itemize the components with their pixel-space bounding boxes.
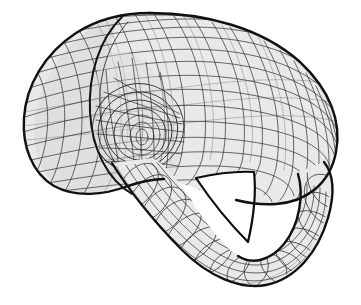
klein-bottle-figure: Klein bottle wireframe surface bbox=[0, 0, 361, 305]
